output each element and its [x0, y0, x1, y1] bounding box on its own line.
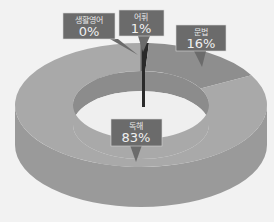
data-label: 16%: [187, 36, 216, 51]
donut-top-layer: [15, 43, 267, 167]
data-label: 83%: [122, 130, 151, 145]
slice-어휘-inner-edge: [142, 71, 145, 107]
data-label: 0%: [79, 24, 100, 39]
donut-chart: 생활영어 0% 어휘 1% 문법 16% 독해 83%: [0, 0, 274, 222]
data-label: 1%: [131, 21, 152, 36]
